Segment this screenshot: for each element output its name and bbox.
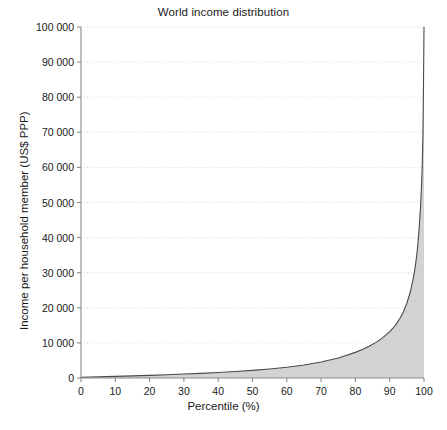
x-tick-label: 100 xyxy=(415,385,433,397)
x-axis-label: Percentile (%) xyxy=(0,400,447,412)
y-tick-label: 10 000 xyxy=(42,337,74,349)
x-tick-label: 50 xyxy=(247,385,259,397)
y-tick-label: 70 000 xyxy=(42,126,74,138)
y-axis-label: Income per household member (US$ PPP) xyxy=(18,111,30,330)
x-axis-ticks xyxy=(81,378,424,382)
y-axis-ticks xyxy=(77,27,81,378)
y-tick-label: 90 000 xyxy=(42,56,74,68)
x-tick-label: 0 xyxy=(78,385,84,397)
y-tick-label: 60 000 xyxy=(42,161,74,173)
x-tick-label: 60 xyxy=(281,385,293,397)
x-tick-label: 40 xyxy=(212,385,224,397)
gridlines xyxy=(81,27,424,343)
y-tick-label: 30 000 xyxy=(42,267,74,279)
x-tick-label: 80 xyxy=(350,385,362,397)
y-tick-label: 20 000 xyxy=(42,302,74,314)
chart-figure: World income distribution 010 00020 0003… xyxy=(0,0,447,430)
y-tick-label: 80 000 xyxy=(42,91,74,103)
x-tick-label: 20 xyxy=(144,385,156,397)
y-tick-label: 50 000 xyxy=(42,197,74,209)
x-tick-label: 90 xyxy=(384,385,396,397)
y-tick-label: 40 000 xyxy=(42,232,74,244)
x-tick-label: 70 xyxy=(315,385,327,397)
y-tick-label: 0 xyxy=(68,372,74,384)
y-tick-label: 100 000 xyxy=(36,21,74,33)
x-tick-label: 10 xyxy=(109,385,121,397)
x-tick-label: 30 xyxy=(178,385,190,397)
